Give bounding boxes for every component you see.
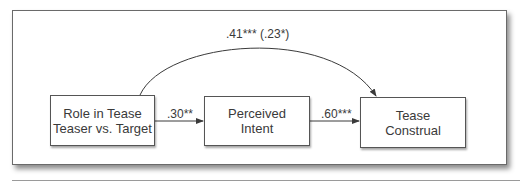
node-role-line1: Role in Tease: [63, 106, 142, 121]
node-perceived-intent: Perceived Intent: [204, 96, 310, 146]
node-role-line2: Teaser vs. Target: [53, 121, 152, 136]
node-construal-line1: Tease: [396, 108, 431, 123]
edge-role-to-construal-curved: [140, 48, 376, 96]
node-intent-line1: Perceived: [228, 106, 286, 121]
edge-label-direct-path: .41*** (.23*): [226, 27, 289, 41]
node-tease-construal: Tease Construal: [360, 97, 466, 148]
node-intent-line2: Intent: [241, 121, 274, 136]
node-construal-line2: Construal: [385, 123, 441, 138]
edge-label-intent-construal: .60***: [321, 107, 352, 121]
node-role-in-tease: Role in Tease Teaser vs. Target: [50, 95, 155, 146]
edge-label-role-intent: .30**: [167, 107, 193, 121]
